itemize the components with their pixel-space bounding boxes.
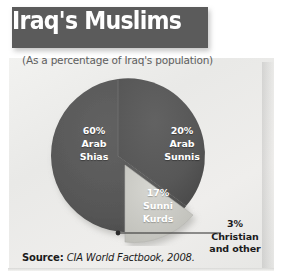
- source-label: Source:: [22, 252, 67, 263]
- page-title: Iraq's Muslims: [12, 9, 181, 33]
- infographic-root: Iraq's Muslims (As a percentage of Iraq'…: [0, 0, 282, 278]
- panel-bottom-rule: [8, 268, 274, 271]
- slice-label-sunni-kurds-percent: 17%: [128, 186, 188, 199]
- callout-christian-and-other: 3% Christian and other: [196, 218, 274, 256]
- callout-line1: Christian: [196, 231, 274, 244]
- chart-subtitle: (As a percentage of Iraq's population): [22, 54, 213, 66]
- slice-label-sunni-kurds-line1: Sunni: [128, 199, 188, 212]
- source-value: CIA World Factbook, 2008.: [67, 252, 195, 263]
- slice-label-sunni-kurds: 17% Sunni Kurds: [128, 186, 188, 225]
- callout-percent: 3%: [196, 218, 274, 231]
- callout-line2: and other: [196, 243, 274, 256]
- slice-label-arab-shias-line2: Shias: [62, 150, 126, 163]
- source-line: Source: CIA World Factbook, 2008.: [22, 252, 195, 263]
- slice-label-arab-shias: 60% Arab Shias: [62, 124, 126, 163]
- slice-label-arab-sunnis-line2: Sunnis: [148, 150, 216, 163]
- slice-label-sunni-kurds-line2: Kurds: [128, 212, 188, 225]
- slice-label-arab-shias-line1: Arab: [62, 137, 126, 150]
- slice-label-arab-shias-percent: 60%: [62, 124, 126, 137]
- slice-label-arab-sunnis: 20% Arab Sunnis: [148, 124, 216, 163]
- slice-label-arab-sunnis-line1: Arab: [148, 137, 216, 150]
- slice-label-arab-sunnis-percent: 20%: [148, 124, 216, 137]
